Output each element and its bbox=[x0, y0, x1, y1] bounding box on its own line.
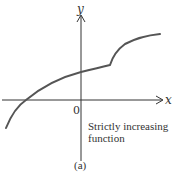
origin-label: 0 bbox=[73, 105, 80, 116]
y-axis-label: y bbox=[77, 3, 84, 15]
annotation-line-2: function bbox=[88, 133, 125, 144]
function-curve bbox=[6, 34, 160, 128]
annotation-line-1: Strictly increasing bbox=[88, 121, 168, 132]
plot-canvas bbox=[0, 0, 177, 177]
x-axis-label: x bbox=[165, 94, 172, 106]
figure-caption: (a) bbox=[74, 160, 86, 171]
